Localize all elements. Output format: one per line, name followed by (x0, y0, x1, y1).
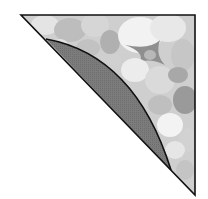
triangle-segment-diagram (0, 0, 208, 199)
